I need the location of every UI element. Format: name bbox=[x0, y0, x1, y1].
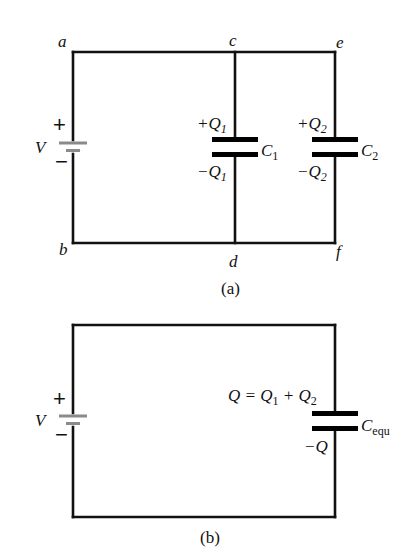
node-label-d: d bbox=[229, 252, 238, 271]
battery-minus-sign-b: − bbox=[55, 422, 68, 447]
circuit-diagram: a c e b d f + V − +Q1 −Q1 C1 +Q2 −Q2 C2 … bbox=[0, 0, 418, 547]
ceq-minus-charge: −Q bbox=[304, 437, 328, 456]
c1-plus-charge: +Q1 bbox=[197, 114, 227, 136]
battery-short-plate-a bbox=[66, 149, 80, 152]
caption-a: (a) bbox=[221, 279, 240, 298]
battery-voltage-label-b: V bbox=[35, 411, 48, 430]
c1-minus-charge: −Q1 bbox=[197, 162, 227, 184]
node-label-a: a bbox=[58, 32, 67, 51]
panel-b-circuit: + V − Q = Q1 + Q2 −Q Cequ (b) bbox=[35, 325, 390, 547]
panel-a-circuit: a c e b d f + V − +Q1 −Q1 C1 +Q2 −Q2 C2 … bbox=[35, 31, 378, 298]
c2-plus-charge: +Q2 bbox=[297, 114, 327, 136]
battery-minus-sign-a: − bbox=[55, 149, 68, 174]
node-label-e: e bbox=[336, 33, 344, 52]
caption-b: (b) bbox=[200, 528, 220, 547]
c2-top-plate bbox=[312, 137, 358, 142]
c2-label: C2 bbox=[361, 141, 378, 163]
battery-plus-sign-a: + bbox=[53, 112, 66, 137]
ceq-top-charge: Q = Q1 + Q2 bbox=[228, 386, 317, 408]
battery-voltage-label-a: V bbox=[35, 138, 48, 157]
c2-minus-charge: −Q2 bbox=[297, 162, 327, 184]
node-label-b: b bbox=[59, 240, 68, 259]
c1-label: C1 bbox=[261, 141, 278, 163]
battery-long-plate-a bbox=[59, 142, 87, 145]
c1-top-plate bbox=[212, 137, 258, 142]
ceq-bottom-plate bbox=[312, 426, 358, 431]
c2-bottom-plate bbox=[312, 152, 358, 157]
battery-short-plate-b bbox=[66, 422, 80, 425]
ceq-label: Cequ bbox=[361, 416, 390, 438]
battery-plus-sign-b: + bbox=[53, 386, 66, 411]
node-label-c: c bbox=[229, 31, 237, 50]
c1-bottom-plate bbox=[212, 152, 258, 157]
node-label-f: f bbox=[336, 242, 343, 261]
battery-long-plate-b bbox=[59, 415, 87, 418]
ceq-top-plate bbox=[312, 411, 358, 416]
